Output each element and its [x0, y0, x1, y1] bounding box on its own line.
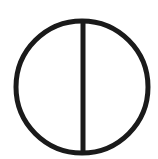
diagram-canvas	[0, 0, 158, 159]
circle-diagram	[0, 0, 158, 159]
